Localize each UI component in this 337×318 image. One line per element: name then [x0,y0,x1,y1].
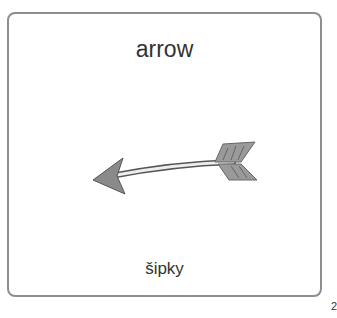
flashcard: arrow šipky [7,12,322,297]
arrow-icon [83,124,263,208]
page-number: 2 [331,300,337,312]
card-subtitle: šipky [9,259,320,279]
card-title: arrow [9,36,320,63]
